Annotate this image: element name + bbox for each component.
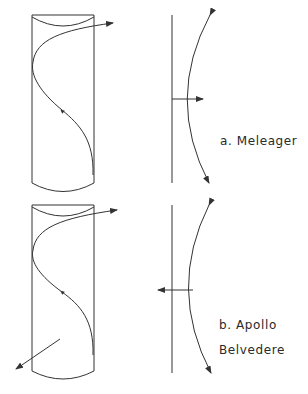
panel-b-label-line1: b. Apollo (219, 318, 277, 332)
cylinder-top-arc (32, 17, 94, 26)
cylinder-bottom-arc (32, 371, 94, 379)
panel-a-cylinder (32, 15, 113, 192)
diagram-canvas (0, 0, 308, 394)
cylinder-top-arc (32, 207, 94, 216)
spiral-curve (32, 210, 117, 355)
cylinder-bottom-arc (32, 183, 94, 192)
panel-b-cylinder (16, 205, 117, 379)
arrow-head-icon (59, 108, 65, 114)
panel-a-label: a. Meleager (220, 134, 297, 148)
curved-arc (188, 205, 211, 373)
outward-arrow (16, 339, 60, 369)
panel-b-side-view (158, 205, 211, 373)
panel-a-side-view (172, 15, 210, 183)
spiral-curve (32, 23, 113, 175)
panel-b-label-line2: Belvedere (219, 343, 285, 357)
